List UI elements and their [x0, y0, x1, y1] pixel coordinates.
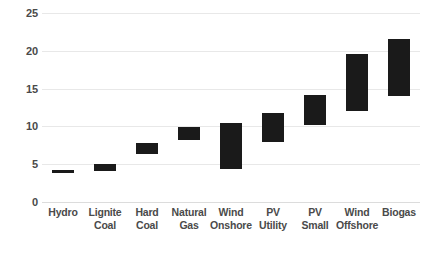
x-label-lignite-coal: LigniteCoal: [84, 206, 126, 232]
x-label-line-1: Wind: [345, 206, 370, 218]
bar-lignite-coal: [94, 164, 116, 171]
x-label-wind-offshore: WindOffshore: [336, 206, 378, 232]
x-label-line-2: Coal: [126, 219, 168, 232]
x-label-line-2: Onshore: [210, 219, 252, 232]
y-axis: 25 20 15 10 5 0: [0, 8, 38, 207]
y-tick-label-0: 0: [4, 197, 38, 208]
x-label-line-1: Wind: [219, 206, 244, 218]
x-label-biogas: Biogas: [378, 206, 420, 219]
x-label-hard-coal: HardCoal: [126, 206, 168, 232]
y-tick-label-10: 10: [4, 121, 38, 132]
bar-wind-offshore: [346, 54, 368, 111]
gridline-25: [42, 13, 420, 14]
gridline-0: [42, 202, 420, 203]
y-tick-label-15: 15: [4, 84, 38, 95]
x-label-line-2: Offshore: [336, 219, 378, 232]
x-label-line-1: Hard: [135, 206, 158, 218]
x-label-hydro: Hydro: [42, 206, 84, 219]
bar-wind-onshore: [220, 123, 242, 170]
x-label-wind-onshore: WindOnshore: [210, 206, 252, 232]
x-label-line-1: PV Utility: [259, 206, 287, 231]
chart-container: 25 20 15 10 5 0 HydroLigniteCoalHardCoal…: [0, 0, 426, 258]
bar-biogas: [388, 39, 410, 96]
x-label-line-1: Hydro: [48, 206, 77, 218]
x-label-line-1: Biogas: [382, 206, 416, 218]
x-label-pv-small: PV Small: [294, 206, 336, 232]
bar-natural-gas: [178, 127, 200, 140]
x-label-line-1: Lignite: [88, 206, 121, 218]
plot-area: [42, 8, 420, 207]
bar-pv-small: [304, 95, 326, 125]
x-axis-labels: HydroLigniteCoalHardCoalNaturalGasWindOn…: [42, 206, 420, 256]
bar-pv-utility: [262, 113, 284, 142]
x-label-line-1: PV Small: [301, 206, 328, 231]
x-label-pv-utility: PV Utility: [252, 206, 294, 232]
bar-hydro: [52, 170, 74, 172]
x-label-natural-gas: NaturalGas: [168, 206, 210, 232]
y-tick-label-5: 5: [4, 159, 38, 170]
x-label-line-2: Gas: [168, 219, 210, 232]
x-label-line-2: Coal: [84, 219, 126, 232]
y-tick-label-20: 20: [4, 46, 38, 57]
bar-hard-coal: [136, 143, 158, 154]
y-tick-label-25: 25: [4, 8, 38, 19]
x-label-line-1: Natural: [172, 206, 207, 218]
gridline-20: [42, 51, 420, 52]
